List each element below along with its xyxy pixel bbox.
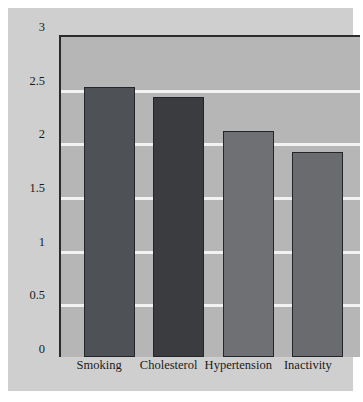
bar: [223, 131, 274, 357]
bar: [153, 97, 204, 357]
bar-chart-figure: 00.511.522.53 SmokingCholesterolHyperten…: [0, 0, 363, 402]
plot-area: [59, 35, 360, 357]
figure-canvas: [8, 8, 353, 391]
bar: [84, 87, 135, 357]
bar: [292, 152, 343, 357]
